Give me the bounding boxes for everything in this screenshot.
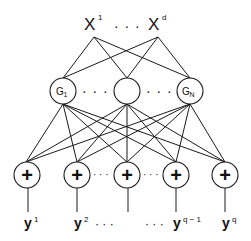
output-label-q: y q — [222, 215, 236, 231]
svg-text:y: y — [222, 215, 230, 231]
svg-text:+: + — [170, 164, 182, 186]
output-label-1: y 1 — [24, 215, 39, 231]
svg-text:2: 2 — [84, 215, 89, 224]
svg-text:q − 1: q − 1 — [183, 215, 202, 224]
input-ellipsis: · · · — [114, 18, 141, 34]
hidden-ellipsis-left: · · · — [82, 83, 109, 99]
hidden-ellipsis-right: · · · — [146, 83, 173, 99]
sum-node-1: + — [14, 162, 40, 188]
input-node-1: X 1 — [84, 13, 103, 34]
input-node-d: X d — [148, 13, 166, 34]
svg-text:+: + — [219, 164, 231, 186]
network-diagram: X 1 · · · X d G 1 · · · · · · G N + + · … — [0, 0, 251, 241]
sum-node-2: + — [64, 162, 90, 188]
svg-text:X: X — [148, 15, 159, 34]
svg-text:X: X — [84, 15, 95, 34]
hidden-node-gn: G N — [177, 78, 203, 104]
output-label-2: y 2 — [74, 215, 89, 231]
svg-text:q: q — [232, 215, 236, 224]
svg-text:+: + — [121, 164, 133, 186]
svg-text:+: + — [21, 164, 33, 186]
svg-text:y: y — [173, 215, 181, 231]
hidden-node-middle — [114, 78, 140, 104]
svg-text:1: 1 — [34, 215, 39, 224]
svg-text:y: y — [24, 215, 32, 231]
sum-ellipsis-left: · · · — [93, 169, 109, 180]
svg-text:1: 1 — [64, 91, 68, 98]
svg-text:y: y — [74, 215, 82, 231]
svg-text:1: 1 — [98, 13, 103, 22]
sum-node-q: + — [212, 162, 238, 188]
sum-ellipsis-right: · · · — [143, 169, 159, 180]
hidden-node-g1: G 1 — [50, 78, 76, 104]
output-label-q-1: y q − 1 — [173, 215, 202, 231]
svg-text:N: N — [190, 91, 195, 98]
sum-node-middle: + — [114, 162, 140, 188]
svg-text:d: d — [162, 13, 166, 22]
output-ellipsis-right: · · · — [145, 217, 164, 231]
output-ellipsis-left: · · · — [95, 217, 114, 231]
sum-node-q-1: + — [163, 162, 189, 188]
svg-text:+: + — [71, 164, 83, 186]
